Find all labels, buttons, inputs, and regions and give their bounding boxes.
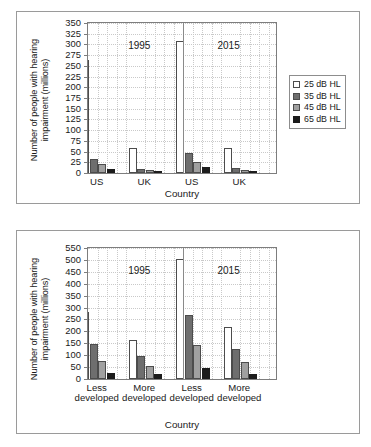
legend-label: 25 dB HL [304, 80, 341, 89]
bar [202, 368, 210, 379]
y-tick-mark [84, 367, 87, 368]
gridline-vertical [250, 23, 251, 173]
bar [129, 340, 137, 379]
legend-swatch-icon [293, 116, 300, 123]
y-axis-title-bottom: Number of people with hearing impairment… [29, 234, 51, 404]
x-tick-label: UK [233, 177, 246, 187]
y-tick-label: 0 [76, 168, 81, 177]
gridline-vertical [259, 248, 260, 379]
bar [137, 356, 145, 379]
gridline-vertical [202, 23, 203, 173]
bar [137, 169, 145, 173]
chart-panel-bottom: Number of people with hearing impairment… [16, 230, 360, 434]
y-tick-label: 550 [65, 243, 81, 252]
x-axis-title-top: Country [165, 189, 199, 199]
y-tick-label: 325 [65, 29, 81, 38]
x-tick-label: Moredeveloped [217, 383, 261, 404]
y-tick-label: 200 [65, 327, 81, 336]
gridline-vertical [117, 23, 118, 173]
gridline-vertical [107, 23, 108, 173]
y-tick-mark [84, 66, 87, 67]
group-separator [183, 248, 184, 379]
plot-area-top: 19952015 [87, 22, 277, 174]
y-tick-mark [84, 248, 87, 249]
gridline-vertical [212, 23, 213, 173]
gridline-vertical [250, 248, 251, 379]
bar [154, 374, 162, 379]
bar [224, 148, 232, 173]
y-tick-mark [84, 260, 87, 261]
y-tick-mark [84, 130, 87, 131]
gridline-vertical [240, 248, 241, 379]
legend-swatch-icon [293, 104, 300, 111]
chart-bottom: Number of people with hearing impairment… [17, 231, 359, 433]
x-tick-label: US [185, 177, 198, 187]
bar [87, 60, 89, 173]
y-tick-mark [84, 319, 87, 320]
bar [193, 162, 201, 173]
y-tick-mark [84, 77, 87, 78]
chart-top: Number of people with hearing impairment… [17, 12, 359, 203]
bar [90, 344, 98, 379]
gridline-vertical [98, 23, 99, 173]
y-tick-mark [84, 296, 87, 297]
legend-top: 25 dB HL35 dB HL45 dB HL65 dB HL [289, 75, 346, 129]
legend-item: 65 dB HL [293, 114, 341, 126]
y-tick-mark [84, 109, 87, 110]
gridline-vertical [164, 23, 165, 173]
group-separator [183, 23, 184, 173]
bar [241, 170, 249, 173]
y-tick-label: 50 [71, 147, 81, 156]
y-tick-label: 300 [65, 303, 81, 312]
gridline-vertical [155, 23, 156, 173]
x-axis-title-bottom: Country [165, 420, 199, 430]
y-tick-label: 225 [65, 72, 81, 81]
legend-swatch-icon [293, 93, 300, 100]
y-tick-label: 50 [71, 362, 81, 371]
bar [249, 374, 257, 379]
bar [232, 168, 240, 173]
gridline-vertical [164, 248, 165, 379]
x-tick-label: US [90, 177, 103, 187]
y-tick-label: 125 [65, 115, 81, 124]
chart-panel-top: Number of people with hearing impairment… [16, 11, 360, 204]
figure-page: Number of people with hearing impairment… [0, 0, 371, 447]
x-tick-label-line: developed [170, 393, 214, 403]
y-axis-title-top: Number of people with hearing impairment… [29, 20, 51, 180]
bar [241, 362, 249, 379]
y-tick-mark [84, 119, 87, 120]
y-tick-label: 400 [65, 279, 81, 288]
bar [98, 164, 106, 173]
bar [90, 159, 98, 173]
x-tick-label-line: US [90, 177, 103, 187]
gridline-vertical [202, 248, 203, 379]
bar [146, 170, 154, 173]
y-tick-label: 150 [65, 339, 81, 348]
y-tick-label: 100 [65, 125, 81, 134]
x-tick-label: UK [138, 177, 151, 187]
y-tick-mark [84, 152, 87, 153]
gridline-vertical [98, 248, 99, 379]
gridline-vertical [240, 23, 241, 173]
y-tick-mark [84, 308, 87, 309]
y-tick-mark [84, 55, 87, 56]
x-tick-label-line: UK [233, 177, 246, 187]
x-tick-label-line: developed [217, 393, 261, 403]
y-tick-mark [84, 87, 87, 88]
y-tick-label: 450 [65, 267, 81, 276]
y-tick-mark [84, 98, 87, 99]
y-tick-label: 500 [65, 255, 81, 264]
legend-item: 45 dB HL [293, 102, 341, 114]
year-annotation: 2015 [217, 266, 239, 276]
y-tick-label: 200 [65, 83, 81, 92]
x-tick-label-line: US [185, 177, 198, 187]
bar [232, 349, 240, 379]
y-tick-label: 300 [65, 40, 81, 49]
y-tick-label: 250 [65, 61, 81, 70]
y-tick-mark [84, 355, 87, 356]
legend-label: 35 dB HL [304, 92, 341, 101]
bar [249, 171, 257, 173]
y-tick-mark [84, 379, 87, 380]
gridline-vertical [174, 248, 175, 379]
gridline-vertical [126, 248, 127, 379]
